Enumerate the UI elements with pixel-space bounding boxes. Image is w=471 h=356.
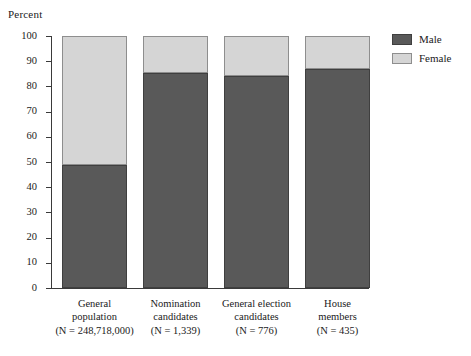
stacked-bar-chart: Percent 1009080706050403020100 Generalpo… [0,0,471,356]
chart-legend: Male Female [392,33,451,71]
legend-label-male: Male [419,33,442,45]
y-tick-60 [46,137,52,138]
legend-item-male: Male [392,33,451,45]
y-tick-label-70: 70 [7,106,37,117]
bar-3-male-segment [224,76,289,288]
category-label-4-line-2: members [263,310,413,323]
category-label-4-line-3: (N = 435) [263,324,413,337]
y-tick-40 [46,187,52,188]
y-tick-label-30: 30 [7,207,37,218]
y-tick-label-10: 10 [7,257,37,268]
y-axis-title: Percent [8,8,42,20]
bar-2-female-segment [143,36,208,73]
bar-4 [305,36,370,288]
y-tick-100 [46,36,52,37]
category-label-4: Housemembers(N = 435) [263,297,413,337]
female-swatch [392,53,412,64]
bar-4-male-segment [305,69,370,288]
bar-1 [62,36,127,288]
x-axis-line [51,288,369,289]
bar-2-male-segment [143,73,208,288]
legend-item-female: Female [392,52,451,64]
bar-3 [224,36,289,288]
bar-1-male-segment [62,165,127,288]
y-tick-10 [46,263,52,264]
y-tick-30 [46,212,52,213]
y-tick-label-100: 100 [7,31,37,42]
y-tick-0 [46,288,52,289]
y-tick-label-0: 0 [7,283,37,294]
y-tick-label-60: 60 [7,131,37,142]
bar-1-female-segment [62,36,127,165]
y-tick-label-80: 80 [7,81,37,92]
male-swatch [392,34,412,45]
y-tick-label-50: 50 [7,157,37,168]
y-tick-50 [46,162,52,163]
y-tick-90 [46,61,52,62]
y-tick-label-40: 40 [7,182,37,193]
y-tick-70 [46,112,52,113]
bar-4-female-segment [305,36,370,69]
bar-2 [143,36,208,288]
y-tick-label-90: 90 [7,56,37,67]
bar-3-female-segment [224,36,289,76]
y-tick-label-20: 20 [7,232,37,243]
y-tick-20 [46,238,52,239]
category-label-4-line-1: House [263,297,413,310]
y-tick-80 [46,86,52,87]
legend-label-female: Female [419,52,451,64]
